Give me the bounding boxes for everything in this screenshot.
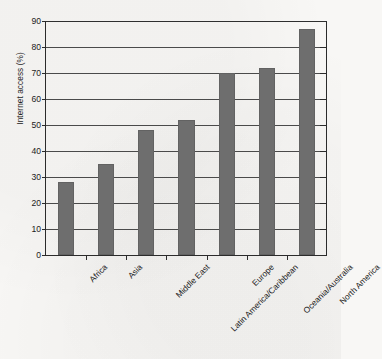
y-axis-tick-0 [42,255,46,256]
bar-oceania-australia [259,68,275,255]
x-axis-label-middle-east: Middle East [174,262,212,300]
x-axis-label-africa: Africa [87,262,109,284]
x-axis-tick-6 [287,255,288,260]
y-axis-tick-label-0: 0 [36,250,41,260]
bar-middle-east [138,130,154,255]
y-axis-tick-label-50: 50 [31,120,41,130]
x-axis-label-asia: Asia [126,262,144,280]
y-axis-tick-label-70: 70 [31,68,41,78]
y-axis-tick-label-80: 80 [31,42,41,52]
x-axis-tick-3 [166,255,167,260]
x-axis-tick-5 [247,255,248,260]
bar-africa [58,182,74,255]
bar-europe [219,73,235,255]
bar-latin-america-caribbean [178,120,194,255]
y-axis-tick-label-60: 60 [31,94,41,104]
y-axis-tick-label-30: 30 [31,172,41,182]
y-axis-title: Internet access (%) [16,19,25,159]
plot-area: 0102030405060708090 [45,21,327,256]
bar-north-america [299,29,315,255]
y-axis-tick-label-10: 10 [31,224,41,234]
x-axis-tick-2 [126,255,127,260]
x-axis-tick-4 [207,255,208,260]
y-axis-tick-label-20: 20 [31,198,41,208]
y-axis-tick-label-40: 40 [31,146,41,156]
bars-layer [46,21,327,255]
x-axis-labels-layer: AfricaAsiaMiddle EastLatin America/Carib… [45,262,327,357]
x-axis-tick-1 [86,255,87,260]
y-axis-tick-label-90: 90 [31,16,41,26]
bar-asia [98,164,114,255]
